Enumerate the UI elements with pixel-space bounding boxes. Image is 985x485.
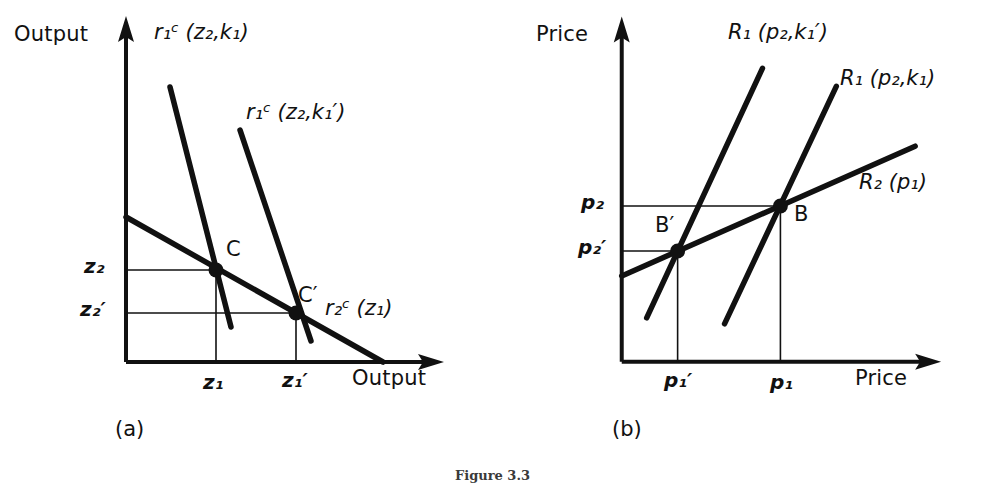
- panel-a-curve-label-r1c-z2-k1: r₁ᶜ (z₂,k₁): [154, 22, 249, 43]
- panel-a-x-axis-title: Output: [352, 368, 426, 389]
- panel-b-curve-label-R2-p1: R₂ (p₁): [859, 172, 927, 193]
- panel-b-x-axis-title: Price: [855, 368, 907, 389]
- panel-b-y-tick-p2-prime: p₂′: [578, 237, 606, 257]
- panel-a-caption: (a): [115, 419, 144, 440]
- panel-b-point-label-B: B: [794, 204, 808, 225]
- panel-b-x-tick-p1-prime: p₁′: [664, 370, 692, 390]
- figure-root: Output Output r₁ᶜ (z₂,k₁) r₁ᶜ (z₂,k₁′) r…: [0, 0, 985, 485]
- panel-a-y-tick-z2-prime: z₂′: [80, 299, 106, 319]
- panel-a-x-tick-z1-prime: z₁′: [282, 370, 308, 390]
- panel-a-curve-label-r1c-z2-k1prime: r₁ᶜ (z₂,k₁′): [246, 102, 345, 123]
- curve-r1c-z2-k1: [170, 87, 231, 327]
- panel-b-guide-lines: [622, 206, 781, 362]
- panel-b-x-tick-p1: p₁: [770, 372, 793, 392]
- panel-a: Output Output r₁ᶜ (z₂,k₁) r₁ᶜ (z₂,k₁′) r…: [0, 0, 492, 485]
- curve-r2c-z1: [126, 217, 383, 362]
- point-Bprime-dot: [670, 243, 685, 258]
- panel-b: Price Price R₁ (p₂,k₁′) R₁ (p₂,k₁) R₂ (p…: [492, 0, 984, 485]
- panel-b-point-label-Bprime: B′: [655, 215, 674, 236]
- curve-R2-p1: [622, 146, 915, 276]
- panel-a-axes: [118, 16, 444, 370]
- panel-a-point-label-Cprime: C′: [298, 285, 317, 306]
- panel-b-y-tick-p2: p₂: [581, 192, 604, 212]
- point-Cprime-dot: [289, 306, 304, 321]
- panel-a-curve-label-r2c-z1: r₂ᶜ (z₁): [325, 298, 392, 319]
- panel-a-guide-lines: [126, 270, 296, 362]
- figure-caption: Figure 3.3: [0, 468, 985, 485]
- panel-a-y-tick-z2: z₂: [84, 256, 104, 276]
- panel-b-curve-label-R1-p2-k1: R₁ (p₂,k₁): [840, 68, 935, 89]
- panel-a-y-axis-title: Output: [14, 24, 88, 45]
- panel-b-curve-label-R1-p2-k1prime: R₁ (p₂,k₁′): [728, 22, 828, 43]
- point-C-dot: [209, 263, 224, 278]
- panel-b-y-axis-title: Price: [536, 24, 588, 45]
- panel-a-x-tick-z1: z₁: [203, 372, 223, 392]
- panel-a-curves: [126, 87, 383, 362]
- panel-a-plot: [0, 0, 492, 485]
- panel-a-point-label-C: C: [226, 239, 241, 260]
- point-B-dot: [773, 199, 788, 214]
- panel-b-caption: (b): [612, 419, 642, 440]
- panel-b-curves: [622, 68, 915, 323]
